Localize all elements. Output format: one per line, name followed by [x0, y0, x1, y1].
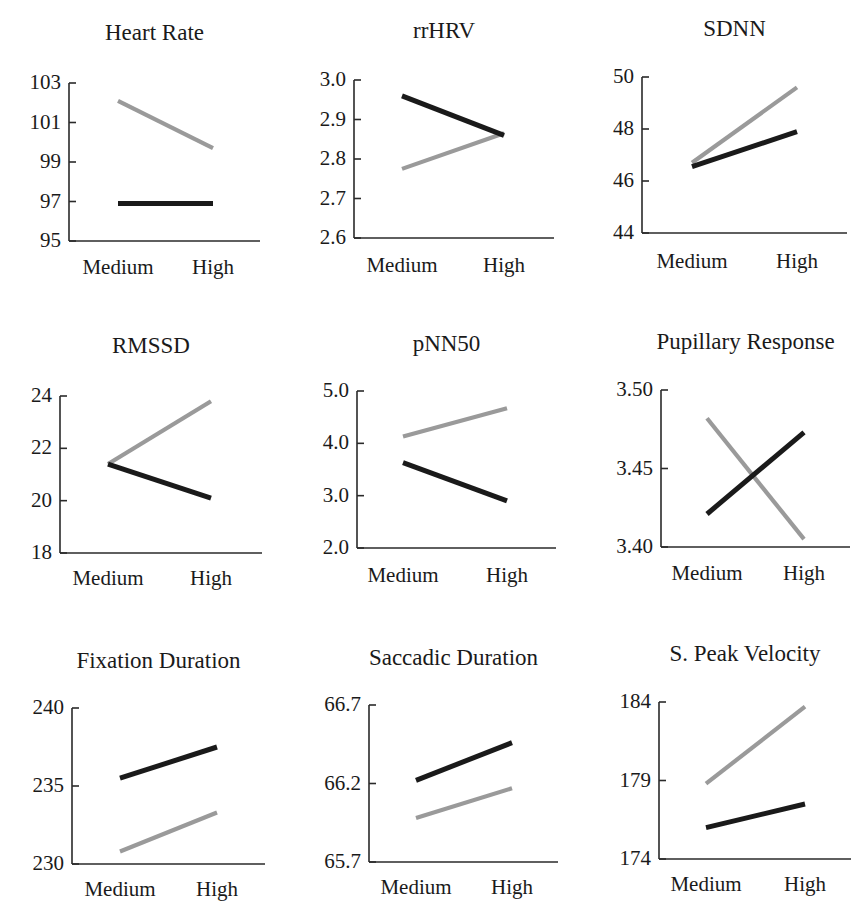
series-line-gray [706, 707, 805, 784]
panel-s-peak-velocity: S. Peak Velocity184179174MediumHigh [0, 0, 864, 920]
x-tick-label-medium: Medium [661, 874, 751, 895]
plot-area [0, 0, 864, 920]
series-line-black [706, 804, 805, 828]
x-tick-label-high: High [760, 874, 850, 895]
